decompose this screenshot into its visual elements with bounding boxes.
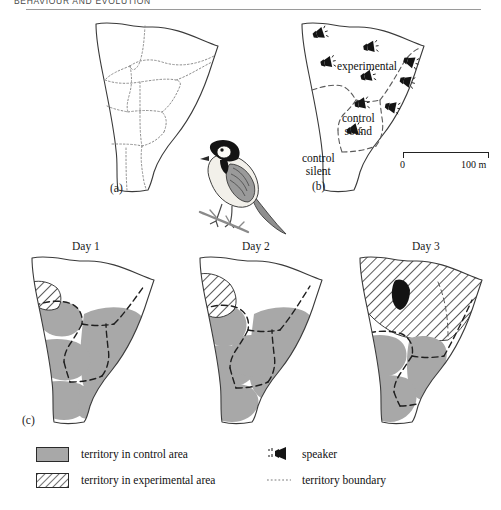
day-2-svg <box>192 252 337 424</box>
legend-label-speaker: speaker <box>302 447 337 462</box>
hatched-swatch <box>36 473 69 488</box>
day-1-svg <box>24 252 169 424</box>
speaker-icon <box>363 40 380 53</box>
day-3-territories <box>357 255 484 422</box>
dotted-line-icon <box>266 472 292 488</box>
day-3-label: Day 3 <box>412 240 440 252</box>
panel-b-label: (b) <box>312 180 325 192</box>
day-3-svg <box>352 252 500 424</box>
day-1-label: Day 1 <box>72 240 100 252</box>
panel-a-label: (a) <box>110 182 123 194</box>
speaker-icon <box>345 122 363 137</box>
day-2-map <box>192 252 337 424</box>
header-rule <box>26 9 481 10</box>
figure-legend: territory in control area territory in e… <box>36 446 486 498</box>
scale-bar-label-left: 0 <box>400 159 405 170</box>
speaker-icon <box>354 96 371 110</box>
legend-label-control-area: territory in control area <box>81 447 188 462</box>
scale-bar-line <box>403 152 489 153</box>
speaker-icon <box>402 54 420 70</box>
speaker-icon <box>384 100 401 114</box>
legend-label-experimental-area: territory in experimental area <box>81 473 215 488</box>
running-head: BEHAVIOUR AND EVOLUTION <box>14 0 434 6</box>
dotted-line-svg <box>266 472 292 488</box>
hatched-swatch-svg <box>37 474 68 487</box>
speaker-icon <box>399 74 417 89</box>
day-2-territories <box>199 273 314 422</box>
scale-bar-tick-left <box>403 152 404 158</box>
speaker-icon-svg <box>266 446 292 462</box>
grey-swatch <box>36 447 69 462</box>
great-tit-illustration <box>196 138 300 238</box>
speaker-icon <box>266 446 292 462</box>
bird-svg <box>196 138 300 238</box>
speaker-icon <box>320 55 337 69</box>
speaker-icon <box>360 68 378 83</box>
speaker-icon <box>311 25 329 41</box>
legend-label-boundary: territory boundary <box>302 473 386 488</box>
panel-c-label: (c) <box>22 414 35 426</box>
day-1-map <box>24 252 169 424</box>
day-1-territories <box>31 281 146 420</box>
scale-bar: 0 100 m <box>403 152 489 174</box>
scale-bar-tick-right <box>488 152 489 158</box>
scale-bar-label-right: 100 m <box>461 159 486 170</box>
day-2-label: Day 2 <box>242 240 270 252</box>
day-3-map <box>352 252 500 424</box>
